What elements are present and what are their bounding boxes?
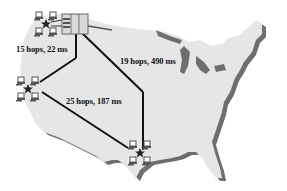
- network-map-diagram: 15 hops, 22 ms 19 hops, 490 ms 25 hops, …: [0, 0, 287, 191]
- link-label-northwest-west: 15 hops, 22 ms: [16, 44, 68, 54]
- computer-icon: [16, 93, 25, 102]
- us-map: [0, 0, 287, 191]
- link-label-west-south: 25 hops, 187 ms: [66, 96, 122, 106]
- link-label-northwest-south: 19 hops, 490 ms: [120, 56, 176, 66]
